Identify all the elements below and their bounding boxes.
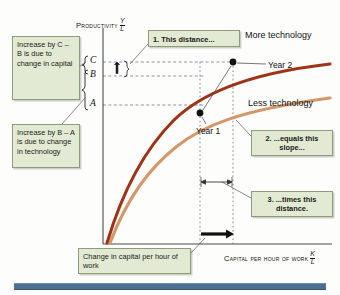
callout-change-in-capital-text: Change in capital per hour of work <box>83 252 178 270</box>
x-axis-ratio-numerator: K <box>310 251 315 257</box>
measure-arrow-right-icon <box>228 180 233 184</box>
leader-technology-box <box>62 98 85 124</box>
curve-label-less-technology: Less technology <box>248 98 313 108</box>
leader-year1 <box>202 117 206 124</box>
x-axis-ratio-denominator: L <box>310 259 315 265</box>
bottom-rule <box>14 283 326 290</box>
leader-change-capital <box>191 238 205 253</box>
y-axis-ratio: YL <box>120 18 125 32</box>
leader-year2 <box>237 63 266 64</box>
brace-B-A <box>82 70 88 110</box>
curve-less-technology <box>110 98 330 243</box>
measure-arrow-left-icon <box>201 180 206 184</box>
callout-increase-capital: Increase by C – B is due to change in ca… <box>12 36 80 100</box>
y-axis-title: ProductivityYL <box>76 19 125 33</box>
x-axis-title-text: Capital per hour of work <box>224 254 308 263</box>
callout-step-1-text: 1. This distance... <box>153 35 215 44</box>
callout-increase-technology: Increase by B – A is due to change in te… <box>12 124 80 168</box>
callout-step-2: 2. ...equals this slope... <box>251 130 333 156</box>
horizontal-guides <box>103 62 236 105</box>
x-axis-title: Capital per hour of workKL <box>224 252 315 266</box>
y-axis-ratio-denominator: L <box>120 26 125 32</box>
brace-small-C-B <box>124 61 129 77</box>
year-1-point <box>197 110 204 117</box>
callout-step-3-text: 3. ...times this distance. <box>268 195 317 213</box>
leader-step2 <box>236 120 251 136</box>
callout-step-1: 1. This distance... <box>148 30 240 47</box>
point-label-year-1: Year 1 <box>196 126 220 136</box>
tick-label-A: A <box>90 98 96 108</box>
x-axis-ratio: KL <box>310 251 315 265</box>
up-arrow-icon <box>115 62 120 74</box>
year-2-point <box>230 59 237 66</box>
distance-marker-C-B <box>115 61 130 77</box>
leader-step3 <box>222 182 251 198</box>
curve-label-more-technology: More technology <box>245 30 312 40</box>
tick-label-C: C <box>90 55 96 65</box>
point-label-year-2: Year 2 <box>268 60 292 70</box>
figure-canvas: ProductivityYL Capital per hour of workK… <box>0 0 340 295</box>
callout-increase-technology-text: Increase by B – A is due to change in te… <box>17 128 75 156</box>
callout-change-in-capital: Change in capital per hour of work <box>78 248 191 274</box>
leader-step1 <box>130 44 148 64</box>
y-axis-title-text: Productivity <box>76 21 118 30</box>
y-axis-ratio-numerator: Y <box>120 18 125 24</box>
change-in-capital-arrow <box>201 229 234 238</box>
callout-increase-capital-text: Increase by C – B is due to change in ca… <box>17 40 72 68</box>
tick-label-B: B <box>90 69 96 79</box>
callout-step-3: 3. ...times this distance. <box>251 191 333 217</box>
distance-measure-bar <box>201 177 232 187</box>
callout-step-2-text: 2. ...equals this slope... <box>266 134 319 152</box>
